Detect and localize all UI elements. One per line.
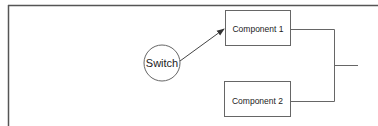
component1-node: Component 1 [226,11,291,46]
parallel-connector [291,30,358,102]
diagram-canvas: Switch Component 1 Component 2 [0,0,378,126]
component2-node: Component 2 [225,82,291,117]
diagram-frame [8,5,378,126]
component1-label: Component 1 [232,24,283,34]
switch-node: Switch [144,45,180,81]
switch-to-component1-arrow [180,29,224,61]
switch-label: Switch [146,57,178,69]
component2-label: Component 2 [232,96,283,106]
